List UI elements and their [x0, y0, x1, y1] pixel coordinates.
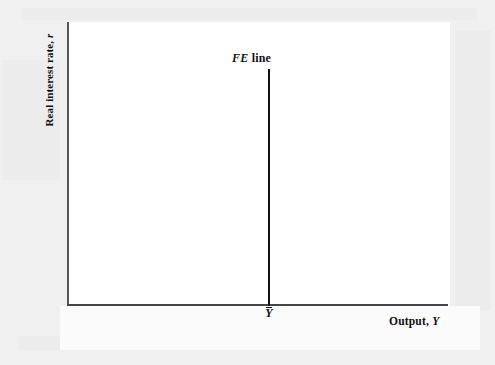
scan-artifact-right: [455, 30, 491, 310]
fe-line-label-word: line: [252, 51, 271, 65]
ybar-tick-label: Y: [257, 306, 281, 320]
y-axis-label: Real interest rate, r: [43, 20, 55, 140]
ybar-tick-label-symbol: Y: [265, 306, 272, 320]
scan-artifact-top: [22, 8, 477, 20]
y-axis-label-text: Real interest rate,: [43, 41, 55, 127]
x-axis-label-text: Output,: [389, 315, 429, 327]
fe-line-label: FE line: [232, 51, 271, 66]
x-axis-label-symbol: Y: [432, 315, 439, 327]
y-axis-label-symbol: r: [43, 34, 55, 38]
fe-line: [268, 69, 270, 306]
x-axis-label: Output, Y: [389, 315, 439, 327]
y-axis-line: [67, 22, 69, 306]
fe-line-label-symbol: FE: [232, 51, 248, 65]
figure-root: FE line Real interest rate, r Output, Y …: [0, 0, 495, 365]
